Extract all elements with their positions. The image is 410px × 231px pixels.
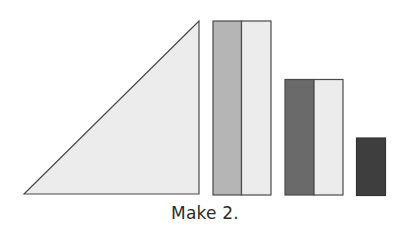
small-rectangle bbox=[357, 138, 386, 196]
tall-rectangle bbox=[213, 21, 271, 195]
triangle-shape bbox=[24, 21, 199, 194]
medium-rectangle bbox=[285, 80, 343, 196]
caption-text: Make 2. bbox=[0, 203, 410, 223]
shapes-diagram bbox=[0, 0, 410, 231]
